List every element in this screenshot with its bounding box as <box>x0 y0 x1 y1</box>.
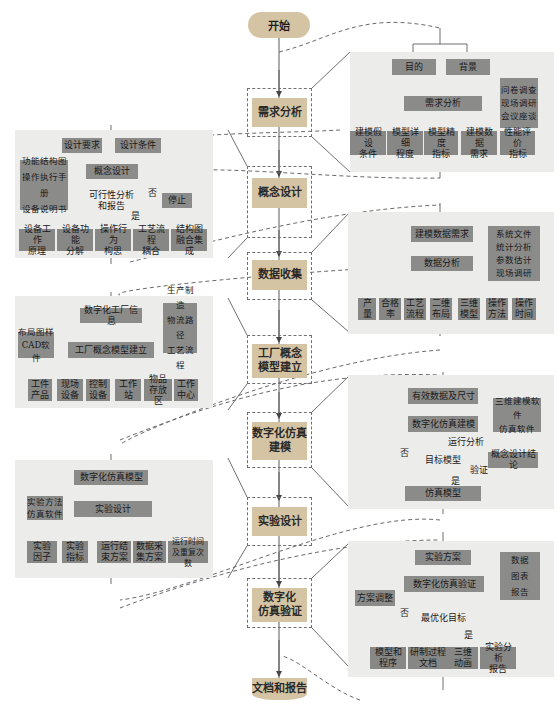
factory-top[interactable]: 数字化工厂信息 <box>80 308 142 323</box>
sim-run-label: 运行分析 <box>448 435 484 448</box>
factory-out-6[interactable]: 工作 中心 <box>174 379 198 401</box>
factory-out-2[interactable]: 现场 设备 <box>57 379 83 401</box>
concept-req[interactable]: 设计要求 <box>62 138 102 153</box>
step-data-label: 数据收集 <box>258 268 302 282</box>
data-out-2-label: 合格 率 <box>381 298 399 320</box>
data-center-label: 数据分析 <box>424 258 460 269</box>
req-center-label: 需求分析 <box>425 98 461 109</box>
factory-center-label: 工厂概念模型建立 <box>75 345 147 356</box>
step-verify[interactable]: 数字化 仿真验证 <box>252 588 307 622</box>
factory-center[interactable]: 工厂概念模型建立 <box>68 342 154 358</box>
data-out-4[interactable]: 二维 布局 <box>430 298 452 320</box>
sim-concept-input[interactable]: 概念设计结论 <box>488 452 538 468</box>
concept-cond[interactable]: 设计条件 <box>115 138 161 153</box>
step-sim[interactable]: 数字化仿真 建模 <box>252 422 307 460</box>
factory-out-5[interactable]: 物品 存放区 <box>144 379 172 401</box>
exp-out-3[interactable]: 运行结 束方案 <box>97 541 131 563</box>
sim-output-label: 仿真模型 <box>425 488 461 499</box>
sim-center[interactable]: 数字化仿真建模 <box>408 416 478 432</box>
concept-out-5[interactable]: 结构图 融合集成 <box>171 229 207 251</box>
req-goal-label: 目的 <box>405 62 423 73</box>
data-center[interactable]: 数据分析 <box>411 256 473 271</box>
verify-decision-text: 最优化目标 <box>421 613 466 624</box>
verify-out-2-label: 研制过程 文档 <box>410 647 446 669</box>
sim-input-1: 三维建模软件 <box>493 394 541 422</box>
data-out-6[interactable]: 操作 方法 <box>486 298 508 320</box>
data-input-4: 现场调研 <box>496 267 532 280</box>
step-sim-label: 数字化仿真 建模 <box>252 427 307 455</box>
data-out-7-label: 操作 时间 <box>515 298 533 320</box>
data-out-1[interactable]: 产 量 <box>358 298 376 320</box>
factory-out-1-label: 工件 产品 <box>31 379 49 401</box>
req-background[interactable]: 背景 <box>446 59 490 75</box>
req-out-5[interactable]: 性能评价 指标 <box>500 131 535 155</box>
step-concept[interactable]: 概念设计 <box>252 178 307 208</box>
verify-adjust-label: 方案调整 <box>357 593 393 604</box>
data-out-5[interactable]: 三维 模型 <box>458 298 480 320</box>
req-out-2[interactable]: 模型详细 程度 <box>387 131 423 155</box>
verify-center[interactable]: 数字化仿真验证 <box>404 576 484 592</box>
factory-out-4[interactable]: 工作站 <box>115 379 141 401</box>
verify-top[interactable]: 实验方案 <box>415 550 471 565</box>
exp-center[interactable]: 实验设计 <box>74 501 152 517</box>
data-top[interactable]: 建模数据需求 <box>411 226 473 242</box>
step-factory-label: 工厂概念 模型建立 <box>258 347 302 375</box>
factory-out-3[interactable]: 控制 设备 <box>86 379 110 401</box>
sim-decision-text: 目标模型 <box>425 455 461 466</box>
verify-out-1[interactable]: 模型和 程序 <box>370 647 406 669</box>
req-input-3: 会议座谈 <box>501 110 537 123</box>
concept-center[interactable]: 概念设计 <box>86 164 138 179</box>
sim-top[interactable]: 有效数据及尺寸 <box>408 388 478 404</box>
concept-req-label: 设计要求 <box>64 140 100 151</box>
verify-out-2[interactable]: 研制过程 文档 <box>408 647 448 669</box>
exp-out-5[interactable]: 运行时间 及重复次数 <box>168 541 208 563</box>
concept-cond-label: 设计条件 <box>120 140 156 151</box>
concept-out-1[interactable]: 设备工作 原理 <box>19 229 55 251</box>
req-goal[interactable]: 目的 <box>392 59 436 75</box>
end-document[interactable]: 文档和报告 <box>252 678 307 700</box>
sim-input-2: 仿真软件 <box>499 422 535 436</box>
req-inputs: 问卷调查 现场调研 会议座谈 <box>500 78 538 128</box>
step-experiment[interactable]: 实验设计 <box>252 507 307 536</box>
step-requirements-label: 需求分析 <box>258 106 302 120</box>
step-factory[interactable]: 工厂概念 模型建立 <box>252 344 307 378</box>
verify-out-4-label: 实验分析 报告 <box>482 642 514 675</box>
sim-output[interactable]: 仿真模型 <box>405 486 481 501</box>
req-out-1[interactable]: 建模假设 条件 <box>350 131 386 155</box>
step-data[interactable]: 数据收集 <box>252 260 307 290</box>
concept-stop[interactable]: 停止 <box>162 193 192 208</box>
req-out-4[interactable]: 建模数据 需求 <box>461 131 497 155</box>
concept-out-2[interactable]: 设备功能 分解 <box>57 229 93 251</box>
data-out-5-label: 三维 模型 <box>460 298 478 320</box>
data-out-3[interactable]: 工艺 流程 <box>404 298 426 320</box>
start-terminal[interactable]: 开始 <box>248 12 310 38</box>
exp-out-1[interactable]: 实验 因子 <box>27 541 57 563</box>
verify-out-4[interactable]: 实验分析 报告 <box>480 647 516 669</box>
data-out-7[interactable]: 操作 时间 <box>512 298 536 320</box>
verify-center-label: 数字化仿真验证 <box>413 579 476 590</box>
exp-out-2[interactable]: 实验 指标 <box>62 541 88 563</box>
exp-center-label: 实验设计 <box>95 504 131 515</box>
concept-yes-label: 是 <box>131 209 140 222</box>
sim-top-label: 有效数据及尺寸 <box>412 391 475 402</box>
req-out-3[interactable]: 模型精度 指标 <box>424 131 458 155</box>
concept-out-4[interactable]: 工艺流程 耦合 <box>133 229 169 251</box>
step-requirements[interactable]: 需求分析 <box>252 98 307 127</box>
data-out-2[interactable]: 合格 率 <box>379 298 401 320</box>
concept-out-3[interactable]: 操作行为 构思 <box>95 229 131 251</box>
req-center[interactable]: 需求分析 <box>404 96 482 111</box>
verify-yes-label: 是 <box>464 628 473 641</box>
exp-top[interactable]: 数字化仿真模型 <box>74 470 148 485</box>
concept-decision-text: 可行性分析 和报告 <box>89 190 134 212</box>
concept-input-2: 操作执行手册 <box>20 169 68 201</box>
factory-out-1[interactable]: 工件 产品 <box>28 379 52 401</box>
concept-inputs: 功能结构图 操作执行手册 设备说明书 <box>20 160 68 210</box>
verify-adjust[interactable]: 方案调整 <box>355 590 395 606</box>
factory-left-inputs: 布局图样 CAD软件 <box>18 332 54 358</box>
exp-out-2-label: 实验 指标 <box>66 541 84 563</box>
exp-inputs: 实验方法 仿真软件 <box>27 496 63 520</box>
exp-out-4[interactable]: 数据采 集方案 <box>133 541 166 563</box>
verify-out-3[interactable]: 三维 动画 <box>448 647 478 669</box>
concept-no-label: 否 <box>148 186 157 199</box>
verify-input-3: 报告 <box>511 584 529 600</box>
